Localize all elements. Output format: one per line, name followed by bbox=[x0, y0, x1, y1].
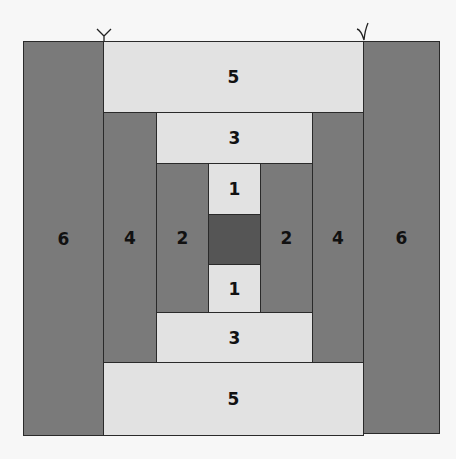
piece-2-left: 2 bbox=[156, 163, 209, 313]
piece-label: 2 bbox=[177, 228, 189, 248]
piece-6-left: 6 bbox=[23, 41, 104, 436]
piece-4-left: 4 bbox=[103, 112, 157, 363]
thread-mark-left-icon bbox=[94, 26, 114, 42]
piece-1-top: 1 bbox=[208, 163, 261, 215]
piece-label: 6 bbox=[396, 228, 408, 248]
piece-label: 5 bbox=[228, 67, 240, 87]
piece-label: 1 bbox=[229, 279, 241, 299]
thread-mark-right-icon bbox=[355, 20, 373, 42]
piece-label: 5 bbox=[228, 389, 240, 409]
piece-1-bottom: 1 bbox=[208, 264, 261, 313]
piece-label: 4 bbox=[124, 228, 136, 248]
piece-label: 6 bbox=[58, 229, 70, 249]
piece-5-top: 5 bbox=[103, 41, 364, 113]
piece-4-right: 4 bbox=[312, 112, 364, 363]
piece-6-right: 6 bbox=[363, 41, 440, 434]
piece-5-bottom: 5 bbox=[103, 362, 364, 436]
piece-label: 2 bbox=[281, 228, 293, 248]
piece-3-bottom: 3 bbox=[156, 312, 313, 363]
piece-2-right: 2 bbox=[260, 163, 313, 313]
piece-center bbox=[208, 214, 261, 265]
piece-label: 3 bbox=[229, 328, 241, 348]
piece-label: 4 bbox=[332, 228, 344, 248]
piece-3-top: 3 bbox=[156, 112, 313, 164]
piece-label: 1 bbox=[229, 179, 241, 199]
piece-label: 3 bbox=[229, 128, 241, 148]
